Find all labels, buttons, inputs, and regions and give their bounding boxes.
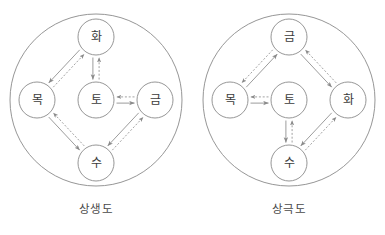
connection-solid-arrow — [246, 54, 277, 87]
connection-solid-arrow — [301, 113, 332, 146]
connection-dashed-arrow — [53, 113, 84, 146]
node-label: 수 — [284, 156, 295, 170]
node-label: 화 — [91, 30, 102, 44]
node-center: 토 — [78, 82, 114, 118]
node-label: 화 — [343, 93, 354, 107]
node-left: 목 — [19, 82, 55, 118]
caption-sangsaengdo: 상생도 — [0, 200, 192, 216]
connection-solid-arrow — [49, 117, 80, 150]
node-label: 목 — [225, 93, 236, 107]
connection-solid-arrow — [108, 113, 139, 146]
diagram-sanggeukdo: 금목토화수 — [193, 0, 385, 196]
node-label: 토 — [284, 93, 295, 107]
node-label: 목 — [32, 93, 43, 107]
connection-solid-arrow — [49, 50, 80, 83]
node-label: 금 — [284, 30, 295, 44]
node-top: 금 — [271, 19, 307, 55]
connection-solid-arrow — [301, 54, 332, 87]
node-top: 화 — [78, 19, 114, 55]
node-label: 토 — [91, 93, 102, 107]
node-right: 화 — [330, 82, 366, 118]
figure-row: 화목토금수 상생도 금목토화수 상극도 — [0, 0, 385, 235]
connection-dashed-arrow — [53, 54, 84, 87]
connection-dashed-arrow — [242, 50, 273, 83]
figure-page: 화목토금수 상생도 금목토화수 상극도 — [0, 0, 385, 235]
node-left: 목 — [212, 82, 248, 118]
diagram-svg-sangsaengdo: 화목토금수 — [0, 0, 192, 196]
connection-dashed-arrow — [305, 50, 336, 83]
node-label: 수 — [91, 156, 102, 170]
node-center: 토 — [271, 82, 307, 118]
node-right: 금 — [137, 82, 173, 118]
figure-sanggeukdo: 금목토화수 상극도 — [193, 0, 385, 235]
node-bottom: 수 — [78, 145, 114, 181]
diagram-svg-sanggeukdo: 금목토화수 — [193, 0, 385, 196]
connection-dashed-arrow — [305, 117, 336, 150]
diagram-sangsaengdo: 화목토금수 — [0, 0, 192, 196]
caption-sanggeukdo: 상극도 — [193, 200, 385, 216]
node-bottom: 수 — [271, 145, 307, 181]
figure-sangsaengdo: 화목토금수 상생도 — [0, 0, 192, 235]
connection-dashed-arrow — [112, 117, 143, 150]
node-label: 금 — [150, 93, 161, 107]
